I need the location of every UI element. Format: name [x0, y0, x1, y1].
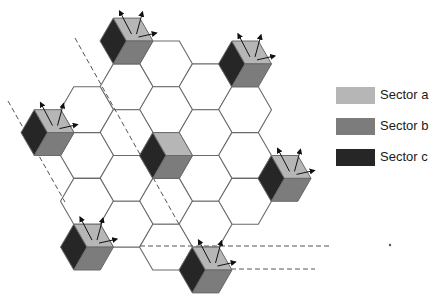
- top-right-site: [219, 34, 276, 87]
- legend-item-sector-c: Sector c: [336, 149, 428, 165]
- legend-item-sector-b: Sector b: [336, 118, 428, 134]
- legend-label-sector-b: Sector b: [380, 118, 428, 134]
- sector-a-swatch: [336, 87, 375, 104]
- legend-label-sector-c: Sector c: [380, 149, 428, 165]
- legend-label-sector-a: Sector a: [380, 87, 428, 103]
- sector-b-swatch: [336, 118, 375, 135]
- stray-marks: [389, 244, 391, 246]
- legend-item-sector-a: Sector a: [336, 87, 428, 103]
- sector-c-swatch: [336, 149, 375, 166]
- legend: Sector a Sector b Sector c: [336, 87, 428, 180]
- stray-dot: [389, 244, 391, 246]
